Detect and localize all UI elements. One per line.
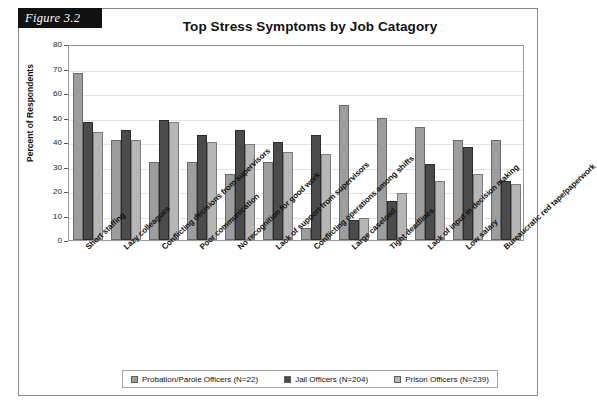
chart-title: Top Stress Symptoms by Job Catagory	[100, 19, 520, 34]
figure-number-label: Figure 3.2	[25, 11, 80, 26]
legend-item[interactable]: Probation/Parole Officers (N=22)	[131, 375, 258, 384]
y-tick-label: 70	[40, 65, 62, 74]
bar[interactable]	[207, 142, 217, 240]
bar[interactable]	[501, 181, 511, 240]
legend-label: Probation/Parole Officers (N=22)	[142, 375, 258, 384]
bar[interactable]	[197, 135, 207, 240]
legend-item[interactable]: Prison Officers (N=239)	[394, 375, 489, 384]
bar[interactable]	[463, 147, 473, 240]
bar[interactable]	[131, 140, 141, 240]
chart-legend: Probation/Parole Officers (N=22)Jail Off…	[122, 370, 498, 388]
figure-number-tab: Figure 3.2	[18, 8, 102, 28]
bar[interactable]	[425, 164, 435, 240]
bar[interactable]	[273, 142, 283, 240]
legend-swatch-icon	[394, 376, 401, 383]
y-tick-label: 80	[40, 40, 62, 49]
y-tick-label: 60	[40, 89, 62, 98]
bar[interactable]	[93, 132, 103, 240]
y-tick-label: 40	[40, 138, 62, 147]
bar[interactable]	[159, 120, 169, 240]
bar[interactable]	[169, 122, 179, 240]
y-tick-label: 30	[40, 163, 62, 172]
bar-group	[487, 46, 525, 240]
bar[interactable]	[311, 135, 321, 240]
bar[interactable]	[121, 130, 131, 240]
y-tick-label: 10	[40, 212, 62, 221]
y-tick-label: 20	[40, 187, 62, 196]
plot-area	[68, 45, 524, 241]
y-tick-label: 50	[40, 114, 62, 123]
bar-group	[107, 46, 145, 240]
y-tick-mark	[64, 241, 68, 242]
legend-swatch-icon	[131, 376, 138, 383]
legend-swatch-icon	[284, 376, 291, 383]
legend-item[interactable]: Jail Officers (N=204)	[284, 375, 368, 384]
y-tick-label: 0	[40, 236, 62, 245]
bar[interactable]	[73, 73, 83, 240]
legend-label: Jail Officers (N=204)	[295, 375, 368, 384]
bar[interactable]	[83, 122, 93, 240]
y-axis-title: Percent of Respondents	[25, 53, 35, 173]
legend-label: Prison Officers (N=239)	[405, 375, 489, 384]
bar-group	[69, 46, 107, 240]
